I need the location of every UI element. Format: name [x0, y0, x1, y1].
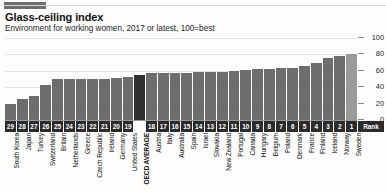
category-label-column: South Korea	[5, 133, 16, 191]
rank-cell-28: 28	[17, 121, 28, 132]
y-tick-20: 20	[358, 99, 386, 108]
rank-cell-7: 7	[276, 121, 287, 132]
category-label-column: Belgium	[264, 133, 275, 191]
bar-column	[64, 38, 75, 120]
category-labels: South KoreaJapanTurkeySwitzerlandBritain…	[5, 133, 357, 191]
rank-cell-2: 2	[334, 121, 345, 132]
bar-spain	[181, 73, 192, 120]
bar-ireland	[99, 79, 110, 120]
category-label-column: Britain	[52, 133, 63, 191]
category-label-column: New Zealand	[217, 133, 228, 191]
category-label-column: Finland	[311, 133, 322, 191]
bar-slovakia	[205, 72, 216, 120]
bar-column	[29, 38, 40, 120]
bar-portugal	[229, 71, 240, 120]
category-label-column: Poland	[276, 133, 287, 191]
bar-australia	[170, 73, 181, 120]
bar-poland	[276, 68, 287, 120]
rank-cell-24: 24	[64, 121, 75, 132]
category-label-column: Israel	[193, 133, 204, 191]
bar-denmark	[287, 68, 298, 120]
category-label-column: Portugal	[229, 133, 240, 191]
bar-column	[5, 38, 16, 120]
y-tick-mark	[358, 119, 364, 120]
header-divider	[0, 5, 386, 6]
bar-israel	[193, 72, 204, 120]
bar-norway	[334, 56, 345, 120]
bar-britain	[52, 79, 63, 120]
y-tick-40: 40	[358, 82, 386, 91]
bar-france	[299, 66, 310, 120]
category-label-column: Australia	[170, 133, 181, 191]
category-label-column: Denmark	[287, 133, 298, 191]
category-label-column: France	[299, 133, 310, 191]
category-label-column: Hungary	[252, 133, 263, 191]
category-label-column: Czech Republic	[87, 133, 98, 191]
bar-column	[205, 38, 216, 120]
category-label-column: Sweden	[346, 133, 357, 191]
rank-cell-empty	[134, 121, 145, 132]
bar-column	[299, 38, 310, 120]
chart-subtitle: Environment for working women, 2017 or l…	[5, 24, 215, 34]
bar-united-states	[123, 77, 134, 120]
category-label-column: Switzerland	[40, 133, 51, 191]
bar-hungary	[252, 69, 263, 120]
bar-column	[287, 38, 298, 120]
category-label-column: Iceland	[323, 133, 334, 191]
bar-new-zealand	[217, 72, 228, 120]
bar-column	[193, 38, 204, 120]
y-tick-mark	[358, 103, 364, 104]
bar-turkey	[29, 96, 40, 120]
bar-iceland	[323, 58, 334, 120]
bar-column	[229, 38, 240, 120]
rank-cell-25: 25	[52, 121, 63, 132]
rank-cell-27: 27	[29, 121, 40, 132]
bar-finland	[311, 63, 322, 120]
bar-series	[5, 38, 357, 120]
bar-column	[134, 38, 145, 120]
y-tick-mark	[358, 37, 364, 38]
rank-strip: 2928272625242322212019181716151413121110…	[5, 121, 357, 132]
bar-germany	[111, 78, 122, 120]
bar-column	[87, 38, 98, 120]
bar-column	[217, 38, 228, 120]
y-tick-80: 80	[358, 49, 386, 58]
rank-cell-8: 8	[264, 121, 275, 132]
rank-cell-21: 21	[99, 121, 110, 132]
rank-axis-label: Rank	[358, 121, 384, 132]
category-label-column: Japan	[17, 133, 28, 191]
bar-austria	[146, 73, 157, 120]
category-label-column: Ireland	[99, 133, 110, 191]
bar-column	[111, 38, 122, 120]
y-tick-mark	[358, 86, 364, 87]
rank-cell-14: 14	[193, 121, 204, 132]
rank-cell-26: 26	[40, 121, 51, 132]
rank-cell-15: 15	[181, 121, 192, 132]
category-label-column: United States	[123, 133, 134, 191]
y-tick-100: 100	[358, 33, 386, 42]
bar-column	[240, 38, 251, 120]
bar-column	[346, 38, 357, 120]
bar-sweden	[346, 54, 357, 120]
rank-cell-16: 16	[170, 121, 181, 132]
rank-cell-20: 20	[111, 121, 122, 132]
rank-cell-3: 3	[323, 121, 334, 132]
bar-column	[181, 38, 192, 120]
category-label-column: Austria	[146, 133, 157, 191]
y-axis: 020406080100	[358, 38, 386, 120]
bar-column	[252, 38, 263, 120]
bar-greece	[76, 79, 87, 120]
bar-czech-republic	[87, 79, 98, 120]
category-label-sweden: Sweden	[355, 133, 362, 156]
bar-column	[276, 38, 287, 120]
rank-cell-29: 29	[5, 121, 16, 132]
rank-cell-4: 4	[311, 121, 322, 132]
plot-area	[5, 38, 357, 120]
bar-oecd-average	[134, 75, 145, 120]
bar-column	[334, 38, 345, 120]
category-label-column: Spain	[181, 133, 192, 191]
category-label-column: Netherlands	[64, 133, 75, 191]
bar-column	[123, 38, 134, 120]
category-label-column: OECD AVERAGE	[134, 133, 145, 191]
y-tick-mark	[358, 53, 364, 54]
